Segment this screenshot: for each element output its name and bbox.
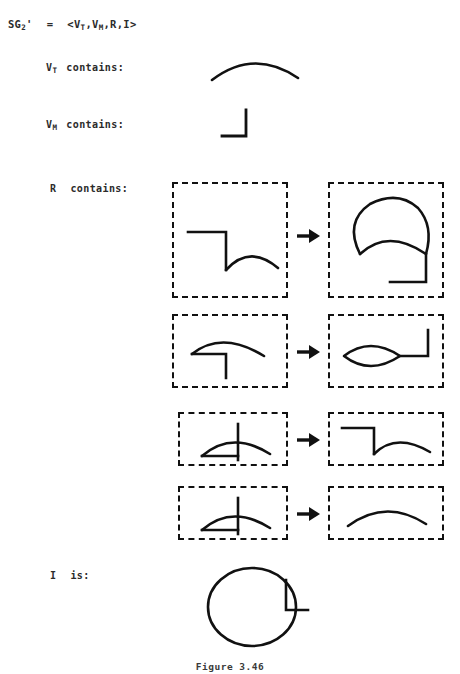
vm-contains-text: contains: bbox=[66, 119, 124, 130]
vt-row-label: VTcontains: bbox=[46, 62, 124, 75]
figure-caption: Figure 3.46 bbox=[0, 661, 460, 672]
rule-1-lhs-shape bbox=[184, 208, 282, 280]
rule-3-lhs-box bbox=[178, 412, 288, 466]
rule-3-rhs-box bbox=[328, 412, 444, 466]
rule-2-lhs-box bbox=[172, 314, 288, 388]
r-row-label: Rcontains: bbox=[50, 183, 128, 194]
rule-1-lhs-box bbox=[172, 182, 288, 298]
rule-4-lhs-box bbox=[178, 486, 288, 540]
vt-contains-text: contains: bbox=[66, 62, 124, 73]
rule-3-lhs-shape bbox=[198, 420, 282, 464]
rule-1-rhs-box bbox=[328, 182, 444, 298]
rule-1-arrow bbox=[296, 226, 322, 250]
vm-row-label: VMcontains: bbox=[46, 119, 124, 132]
r-contains-text: contains: bbox=[70, 183, 128, 194]
rule-2-rhs-box bbox=[328, 314, 444, 388]
vm-subscript: M bbox=[52, 123, 57, 132]
rule-3-rhs-shape bbox=[338, 422, 438, 462]
grammar-prime: ' bbox=[26, 18, 33, 30]
tuple-tail: ,R,I> bbox=[103, 18, 136, 30]
initial-shape-circle bbox=[202, 566, 318, 648]
vm-shape-corner bbox=[218, 106, 268, 144]
equals-sign: = bbox=[47, 18, 54, 30]
rule-4-lhs-shape bbox=[198, 494, 282, 538]
rule-4-arrow bbox=[296, 504, 322, 528]
grammar-definition-header: SG2'=<VT,VM,R,I> bbox=[8, 18, 137, 32]
i-row-label: Iis: bbox=[50, 570, 90, 581]
r-symbol: R bbox=[50, 183, 56, 194]
i-is-text: is: bbox=[70, 570, 89, 581]
rule-4-rhs-box bbox=[328, 486, 444, 540]
tuple-open: <V bbox=[67, 18, 80, 30]
vt-subscript: T bbox=[52, 66, 57, 75]
tuple-middle: ,V bbox=[85, 18, 98, 30]
vt-shape-arc bbox=[208, 52, 304, 86]
rule-1-rhs-shape bbox=[336, 192, 442, 296]
rule-3-arrow bbox=[296, 430, 322, 454]
rule-2-rhs-shape bbox=[338, 326, 440, 382]
i-symbol: I bbox=[50, 570, 56, 581]
grammar-name: SG bbox=[8, 18, 21, 30]
rule-2-arrow bbox=[296, 342, 322, 366]
rule-2-lhs-shape bbox=[186, 328, 280, 382]
rule-4-rhs-shape bbox=[344, 500, 434, 532]
figure-page: SG2'=<VT,VM,R,I> VTcontains: VMcontains:… bbox=[0, 0, 460, 674]
